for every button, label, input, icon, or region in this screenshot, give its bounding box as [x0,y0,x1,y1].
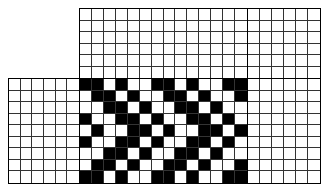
grid-cell [92,32,104,44]
grid-cell [272,44,284,56]
grid-cell [175,114,187,126]
grid-cell [56,114,68,126]
grid-cell [187,9,199,21]
grid-cell [235,79,247,91]
grid-cell [9,79,21,91]
tieup-grid [247,8,321,79]
grid-cell [116,44,128,56]
grid-cell [284,114,296,126]
grid-cell [116,148,128,160]
right-blank-grid [247,78,321,184]
grid-cell [199,67,211,79]
grid-cell [260,148,272,160]
grid-cell [32,171,44,183]
grid-cell [272,9,284,21]
grid-cell [164,148,176,160]
grid-cell [164,67,176,79]
grid-cell [56,91,68,103]
grid-cell [116,91,128,103]
grid-cell [80,44,92,56]
grid-cell [187,148,199,160]
grid-cell [128,171,140,183]
grid-cell [284,9,296,21]
grid-cell [116,79,128,91]
grid-cell [152,171,164,183]
grid-cell [272,125,284,137]
grid-cell [284,79,296,91]
grid-cell [187,137,199,149]
grid-cell [284,67,296,79]
grid-cell [104,148,116,160]
grid-cell [32,114,44,126]
grid-cell [272,79,284,91]
grid-cell [235,67,247,79]
grid-cell [152,21,164,33]
grid-cell [308,9,320,21]
grid-cell [260,67,272,79]
grid-cell [92,171,104,183]
grid-cell [140,32,152,44]
grid-cell [140,44,152,56]
grid-cell [260,114,272,126]
grid-cell [128,21,140,33]
grid-cell [187,44,199,56]
grid-cell [187,79,199,91]
grid-cell [223,148,235,160]
grid-cell [56,137,68,149]
grid-cell [296,55,308,67]
grid-cell [272,137,284,149]
grid-cell [199,79,211,91]
grid-cell [260,102,272,114]
grid-cell [248,44,260,56]
grid-cell [92,114,104,126]
grid-cell [308,32,320,44]
grid-cell [223,160,235,172]
grid-cell [92,137,104,149]
grid-cell [164,32,176,44]
grid-cell [92,21,104,33]
grid-cell [32,79,44,91]
grid-cell [235,148,247,160]
grid-cell [211,125,223,137]
grid-cell [56,79,68,91]
grid-cell [92,125,104,137]
grid-cell [44,171,56,183]
grid-cell [164,102,176,114]
grid-cell [260,91,272,103]
grid-cell [116,67,128,79]
grid-cell [32,91,44,103]
grid-cell [80,9,92,21]
grid-cell [199,32,211,44]
grid-cell [308,148,320,160]
grid-cell [235,171,247,183]
grid-cell [80,137,92,149]
grid-cell [211,114,223,126]
grid-cell [80,148,92,160]
grid-cell [272,55,284,67]
grid-cell [152,160,164,172]
grid-cell [235,21,247,33]
grid-cell [272,160,284,172]
grid-cell [21,125,33,137]
grid-cell [128,114,140,126]
grid-cell [284,125,296,137]
grid-cell [248,55,260,67]
grid-cell [140,160,152,172]
grid-cell [128,91,140,103]
grid-cell [67,114,79,126]
grid-cell [223,67,235,79]
grid-cell [9,171,21,183]
grid-cell [44,91,56,103]
grid-cell [32,125,44,137]
grid-cell [104,55,116,67]
grid-cell [248,171,260,183]
grid-cell [116,125,128,137]
grid-cell [211,21,223,33]
grid-cell [248,79,260,91]
grid-cell [80,160,92,172]
grid-cell [32,160,44,172]
grid-cell [223,171,235,183]
grid-cell [248,102,260,114]
grid-cell [80,91,92,103]
grid-cell [308,91,320,103]
